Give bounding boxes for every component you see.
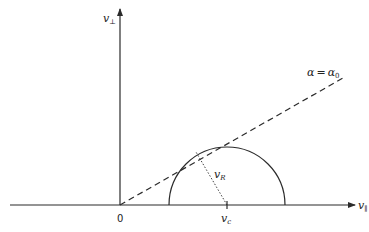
loss-cone-dashed-line [120, 78, 343, 205]
horizontal-axis-label: v∥ [358, 199, 367, 213]
radius-label: vR [214, 168, 226, 182]
origin-label: 0 [117, 213, 123, 224]
center-velocity-label: vc [221, 212, 231, 226]
diagram-canvas: v⊥ v∥ 0 α=α0 vR vc [0, 0, 369, 232]
vertical-axis-label: v⊥ [103, 12, 116, 26]
alpha-label: α=α0 [307, 66, 340, 80]
velocity-semicircle [169, 147, 285, 205]
